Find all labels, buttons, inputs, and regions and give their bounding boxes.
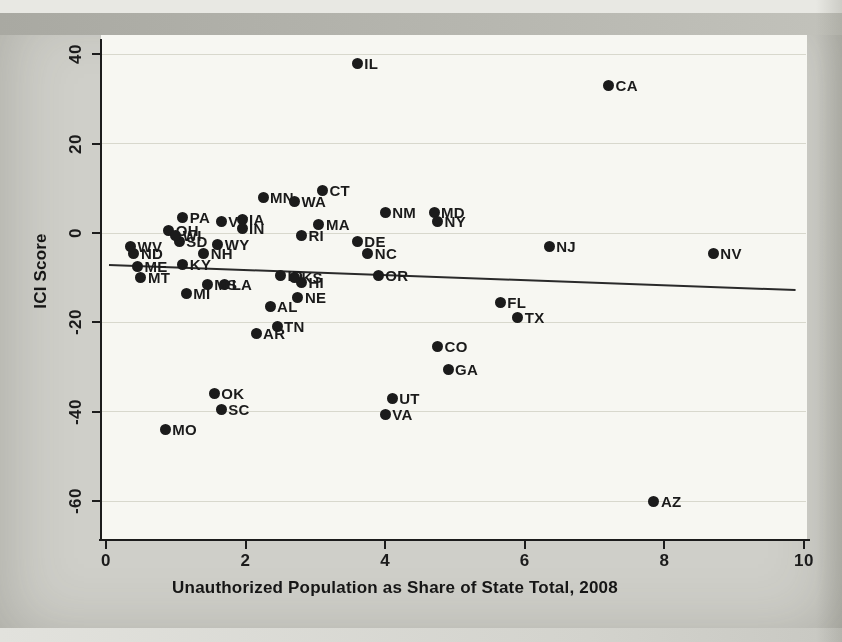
x-axis-line <box>99 539 810 541</box>
data-point-MN <box>258 192 269 203</box>
gridline-y--60 <box>102 501 806 502</box>
data-point-CO <box>432 341 443 352</box>
data-point-TN <box>272 321 283 332</box>
data-point-AZ <box>648 496 659 507</box>
data-point-MO <box>160 424 171 435</box>
x-tick-label-2: 2 <box>224 552 268 570</box>
data-point-RI <box>296 230 307 241</box>
point-label-MS: MS <box>214 276 237 293</box>
x-tick-4 <box>384 541 386 549</box>
data-point-MT <box>135 272 146 283</box>
data-point-FL <box>495 297 506 308</box>
x-tick-6 <box>524 541 526 549</box>
point-label-WA: WA <box>301 193 326 210</box>
y-tick-label-40: 40 <box>67 32 85 76</box>
point-label-IN: IN <box>249 220 265 237</box>
point-label-WI: WI <box>183 227 202 244</box>
gridline-y-20 <box>102 143 806 144</box>
data-point-UT <box>387 393 398 404</box>
point-label-NM: NM <box>392 204 416 221</box>
y-tick-label-20: 20 <box>67 122 85 166</box>
data-point-ID <box>275 270 286 281</box>
data-point-WY <box>212 239 223 250</box>
point-label-TX: TX <box>525 309 545 326</box>
gridline-y--40 <box>102 411 806 412</box>
point-label-GA: GA <box>455 361 478 378</box>
data-point-WA <box>289 196 300 207</box>
data-point-NJ <box>544 241 555 252</box>
point-label-VT: VT <box>228 213 248 230</box>
y-axis-title: ICI Score <box>31 226 51 316</box>
data-point-MI <box>181 288 192 299</box>
y-tick-label--40: -40 <box>67 390 85 434</box>
point-label-CT: CT <box>329 182 350 199</box>
data-point-NV <box>708 248 719 259</box>
data-point-NM <box>380 207 391 218</box>
data-point-NC <box>362 248 373 259</box>
point-label-RI: RI <box>308 227 324 244</box>
x-axis-title: Unauthorized Population as Share of Stat… <box>140 578 650 598</box>
x-tick-label-4: 4 <box>363 552 407 570</box>
data-point-KY <box>177 259 188 270</box>
y-axis-line <box>100 39 102 541</box>
data-point-PA <box>177 212 188 223</box>
point-label-NV: NV <box>720 245 741 262</box>
point-label-NJ: NJ <box>556 238 576 255</box>
point-label-UT: UT <box>399 390 420 407</box>
data-point-MS <box>202 279 213 290</box>
x-tick-0 <box>105 541 107 549</box>
data-point-VT <box>216 216 227 227</box>
data-point-SC <box>216 404 227 415</box>
data-point-GA <box>443 364 454 375</box>
point-label-WY: WY <box>225 236 250 253</box>
x-tick-2 <box>245 541 247 549</box>
data-point-IL <box>352 58 363 69</box>
y-tick-label--20: -20 <box>67 300 85 344</box>
point-label-FL: FL <box>507 294 526 311</box>
photo-right-shade <box>816 0 842 642</box>
data-point-ME <box>132 261 143 272</box>
data-point-AR <box>251 328 262 339</box>
trend-line <box>109 264 795 291</box>
data-point-NE <box>292 292 303 303</box>
gridline-y--20 <box>102 322 806 323</box>
point-label-SC: SC <box>228 401 249 418</box>
data-point-CA <box>603 80 614 91</box>
point-label-OK: OK <box>221 385 244 402</box>
point-label-NC: NC <box>375 245 397 262</box>
point-label-AZ: AZ <box>661 493 682 510</box>
point-label-NY: NY <box>445 213 466 230</box>
point-label-OR: OR <box>385 267 408 284</box>
point-label-IL: IL <box>364 55 378 72</box>
data-point-VA <box>380 409 391 420</box>
point-label-CA: CA <box>616 77 638 94</box>
point-label-MO: MO <box>172 421 197 438</box>
y-tick-label--60: -60 <box>67 479 85 523</box>
point-label-KS: KS <box>301 269 322 286</box>
point-label-NE: NE <box>305 289 326 306</box>
gridline-y-40 <box>102 54 806 55</box>
point-label-MA: MA <box>326 216 350 233</box>
x-tick-10 <box>803 541 805 549</box>
data-point-WV <box>125 241 136 252</box>
point-label-MT: MT <box>148 269 170 286</box>
data-point-NY <box>432 216 443 227</box>
plot-layer: 40200-20-40-600246810ALARAZCACOCTDEFLGAH… <box>0 0 842 642</box>
x-tick-label-8: 8 <box>642 552 686 570</box>
data-point-AL <box>265 301 276 312</box>
data-point-OK <box>209 388 220 399</box>
data-point-OR <box>373 270 384 281</box>
point-label-VA: VA <box>392 406 412 423</box>
data-point-DE <box>352 236 363 247</box>
point-label-PA: PA <box>190 209 210 226</box>
x-tick-label-6: 6 <box>503 552 547 570</box>
point-label-WV: WV <box>137 238 162 255</box>
y-tick-label-0: 0 <box>67 211 85 255</box>
x-tick-label-0: 0 <box>84 552 128 570</box>
point-label-CO: CO <box>445 338 468 355</box>
point-label-TN: TN <box>284 318 305 335</box>
photographed-page: 40200-20-40-600246810ALARAZCACOCTDEFLGAH… <box>0 0 842 642</box>
x-tick-8 <box>663 541 665 549</box>
data-point-WI <box>170 230 181 241</box>
